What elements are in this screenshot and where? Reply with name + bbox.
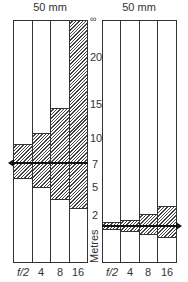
right-dof-bar-f16: [157, 206, 177, 238]
scale-unit-label: Metres: [88, 229, 100, 263]
left-chart-title: 50 mm: [13, 1, 87, 13]
left-focus-arrow-icon: [8, 159, 14, 167]
right-xlabel-8: 8: [139, 266, 157, 278]
scale-label-15: 15: [90, 98, 102, 110]
scale-label-5: 5: [92, 181, 98, 193]
left-xlabel-f2: f/2: [14, 266, 32, 278]
left-xlabel-4: 4: [32, 266, 50, 278]
right-xlabel-4: 4: [121, 266, 139, 278]
right-focus-arrow-icon: [176, 222, 182, 230]
scale-label-7: 7: [92, 158, 98, 170]
right-xlabel-f2: f/2: [103, 266, 121, 278]
left-xlabel-16: 16: [69, 266, 87, 278]
left-dof-bar-f4: [32, 133, 51, 188]
right-chart-title: 50 mm: [102, 1, 176, 13]
left-focus-line: [13, 162, 88, 164]
scale-label-10: 10: [90, 132, 102, 144]
left-dof-bar-f16: [69, 20, 88, 209]
scale-label-infinity: ∞: [90, 14, 96, 24]
left-xlabel-8: 8: [51, 266, 69, 278]
right-xlabel-16: 16: [158, 266, 176, 278]
left-dof-bar-f8: [50, 108, 70, 200]
scale-label-20: 20: [90, 51, 102, 63]
scale-label-2: 2: [92, 209, 98, 221]
right-focus-line: [102, 225, 177, 227]
